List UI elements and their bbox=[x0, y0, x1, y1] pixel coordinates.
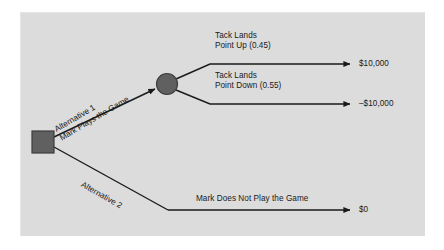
payoff-no-play: $0 bbox=[359, 205, 368, 215]
outcome-label-no-play-line1: Mark Does Not Play the Game bbox=[196, 194, 308, 204]
outcome-label-point-down-line2: Point Down (0.55) bbox=[215, 81, 281, 91]
outcome-label-point-up-line2: Point Up (0.45) bbox=[215, 41, 271, 51]
outcome-label-no-play: Mark Does Not Play the Game bbox=[196, 194, 308, 204]
diagram-canvas: Alternative 1 Mark Plays the Game Altern… bbox=[0, 0, 444, 250]
payoff-point-up: $10,000 bbox=[359, 59, 389, 69]
outcome-label-point-up: Tack Lands Point Up (0.45) bbox=[215, 31, 271, 52]
branch-outcome-point-down bbox=[176, 90, 350, 104]
outcome-label-point-down: Tack Lands Point Down (0.55) bbox=[215, 71, 281, 92]
decision-node bbox=[32, 131, 54, 153]
outcome-label-point-up-line1: Tack Lands bbox=[215, 31, 271, 41]
outcome-label-point-down-line1: Tack Lands bbox=[215, 71, 281, 81]
chance-node bbox=[157, 74, 178, 95]
payoff-point-down: –$10,000 bbox=[359, 99, 394, 109]
